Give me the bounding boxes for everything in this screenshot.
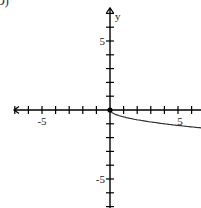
y-tick-label-5: 5 xyxy=(100,35,106,47)
start-point-dot xyxy=(107,107,112,112)
y-tick-label-neg5: -5 xyxy=(96,173,106,185)
x-tick-label-neg5: -5 xyxy=(37,115,47,127)
function-graph: -555-5y xyxy=(0,0,201,208)
y-axis-label: y xyxy=(115,10,121,22)
